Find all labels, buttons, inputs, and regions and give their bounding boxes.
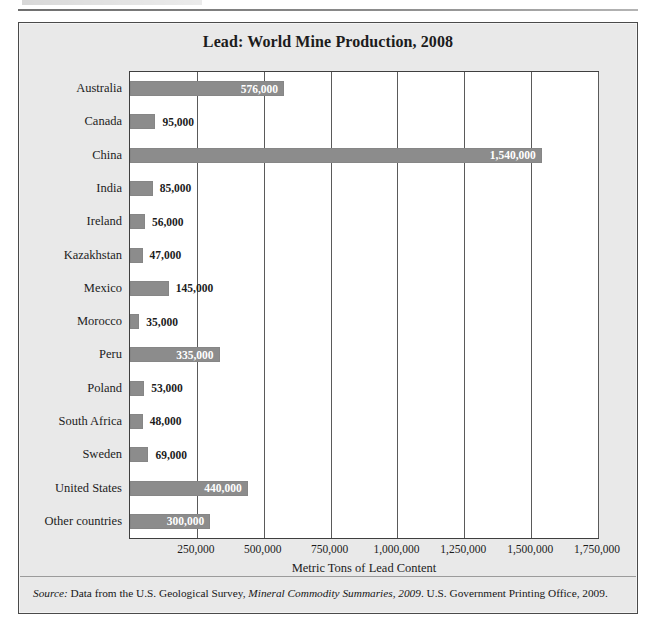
bar: 1,540,000 <box>130 148 542 163</box>
bar <box>130 181 153 196</box>
x-tick-label: 500,000 <box>244 543 281 555</box>
bar-row: Sweden69,000 <box>130 438 598 471</box>
footer-divider <box>20 576 636 577</box>
plot-area: Australia576,000Canada95,000China1,540,0… <box>129 71 599 539</box>
category-label: China <box>92 148 122 163</box>
category-label: Other countries <box>45 514 122 529</box>
bar-value-label: 1,540,000 <box>490 149 536 161</box>
category-label: India <box>96 181 122 196</box>
x-tick-label: 1,500,000 <box>507 543 553 555</box>
bar: 576,000 <box>130 81 284 96</box>
source-note: Source: Data from the U.S. Geological Su… <box>33 587 625 599</box>
category-label: Peru <box>99 347 122 362</box>
bar-value-label: 576,000 <box>241 83 278 95</box>
x-tick-label: 1,250,000 <box>440 543 486 555</box>
bar <box>130 381 144 396</box>
bar-value-label: 56,000 <box>152 216 184 228</box>
bar-value-label: 440,000 <box>204 482 241 494</box>
x-tick-label: 1,750,000 <box>574 543 620 555</box>
plot-wrapper: Australia576,000Canada95,000China1,540,0… <box>19 71 639 541</box>
bar <box>130 414 143 429</box>
bar <box>130 281 169 296</box>
clipped-text-remnant <box>22 0 202 5</box>
source-label: Source: <box>33 587 68 599</box>
bar-value-label: 95,000 <box>162 116 194 128</box>
bar: 335,000 <box>130 347 220 362</box>
x-tick-label: 1,000,000 <box>373 543 419 555</box>
bar-value-label: 53,000 <box>151 382 183 394</box>
category-label: Sweden <box>82 447 122 462</box>
category-label: Ireland <box>87 214 122 229</box>
bar-value-label: 300,000 <box>167 515 204 527</box>
category-label: Poland <box>87 381 122 396</box>
bar-row: Poland53,000 <box>130 372 598 405</box>
bar <box>130 447 148 462</box>
bar <box>130 114 155 129</box>
bar-row: Australia576,000 <box>130 72 598 105</box>
bar-row: China1,540,000 <box>130 139 598 172</box>
category-label: Morocco <box>77 314 122 329</box>
category-label: Kazakhstan <box>64 248 122 263</box>
bar-rows: Australia576,000Canada95,000China1,540,0… <box>130 72 598 538</box>
bar: 300,000 <box>130 514 210 529</box>
header-rule <box>18 9 638 11</box>
source-text-tail: . U.S. Government Printing Office, 2009. <box>421 587 608 599</box>
bar-row: Peru335,000 <box>130 338 598 371</box>
bar-row: South Africa48,000 <box>130 405 598 438</box>
bar-row: Other countries300,000 <box>130 505 598 538</box>
category-label: Australia <box>76 81 122 96</box>
bar-row: India85,000 <box>130 172 598 205</box>
x-tick-label: 250,000 <box>177 543 214 555</box>
category-label: United States <box>55 481 122 496</box>
bar <box>130 214 145 229</box>
bar <box>130 248 143 263</box>
bar-row: Kazakhstan47,000 <box>130 238 598 271</box>
gridline-1750000 <box>598 72 599 538</box>
category-label: South Africa <box>58 414 122 429</box>
bar-row: United States440,000 <box>130 471 598 504</box>
bar <box>130 314 139 329</box>
x-axis-label: Metric Tons of Lead Content <box>129 561 599 576</box>
bar-value-label: 69,000 <box>155 449 187 461</box>
source-text-lead: Data from the U.S. Geological Survey, <box>68 587 249 599</box>
figure-panel: Lead: World Mine Production, 2008 Austra… <box>18 22 638 614</box>
bar-value-label: 48,000 <box>150 415 182 427</box>
x-tick-label: 750,000 <box>311 543 348 555</box>
source-publication-title: Mineral Commodity Summaries, 2009 <box>248 587 421 599</box>
chart-title: Lead: World Mine Production, 2008 <box>19 33 637 51</box>
bar-row: Canada95,000 <box>130 105 598 138</box>
bar-value-label: 35,000 <box>146 316 178 328</box>
bar-value-label: 47,000 <box>150 249 182 261</box>
x-axis-ticks: 250,000500,000750,0001,000,0001,250,0001… <box>129 543 599 561</box>
page-top-strip <box>0 0 655 22</box>
bar-row: Ireland56,000 <box>130 205 598 238</box>
category-label: Mexico <box>84 281 122 296</box>
bar-row: Mexico145,000 <box>130 272 598 305</box>
bar-value-label: 335,000 <box>176 349 213 361</box>
category-label: Canada <box>85 114 122 129</box>
bar-row: Morocco35,000 <box>130 305 598 338</box>
bar: 440,000 <box>130 481 248 496</box>
bar-value-label: 85,000 <box>160 182 192 194</box>
bar-value-label: 145,000 <box>176 282 213 294</box>
